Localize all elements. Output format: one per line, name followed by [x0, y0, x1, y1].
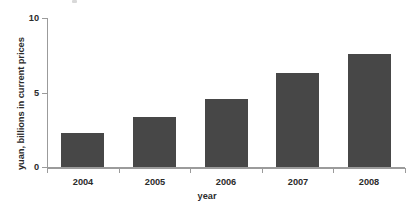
x-axis-line [47, 167, 405, 169]
y-axis-tick-label-10: 10 [13, 13, 39, 23]
x-axis-tick-5 [405, 168, 406, 173]
x-axis-tick-label-2006: 2006 [196, 176, 256, 188]
x-axis-tick-label-2007: 2007 [268, 176, 328, 188]
x-axis-title: year [198, 190, 217, 202]
bar-chart-figure: yuan, billions in current prices 10 5 0 … [0, 0, 413, 211]
bar-2008[interactable] [348, 54, 391, 168]
x-axis-tick-0 [47, 168, 48, 173]
x-axis-tick-label-2005: 2005 [125, 176, 185, 188]
x-axis-tick-label-2004: 2004 [53, 176, 113, 188]
bar-2005[interactable] [133, 117, 176, 168]
x-axis-tick-3 [262, 168, 263, 173]
x-axis-tick-2 [190, 168, 191, 173]
bar-2004[interactable] [61, 133, 104, 167]
x-axis-tick-1 [119, 168, 120, 173]
y-axis-tick-label-5: 5 [13, 88, 39, 98]
x-axis-tick-4 [333, 168, 334, 173]
y-axis-line [47, 18, 48, 168]
bar-2007[interactable] [276, 73, 319, 167]
y-axis-tick-10 [42, 18, 47, 19]
scan-artifact [72, 0, 77, 3]
y-axis-tick-5 [42, 93, 47, 94]
y-axis-tick-label-0: 0 [13, 162, 39, 172]
bar-2006[interactable] [205, 99, 248, 168]
x-axis-title-wrap: year [0, 190, 413, 202]
x-axis-tick-label-2008: 2008 [339, 176, 399, 188]
